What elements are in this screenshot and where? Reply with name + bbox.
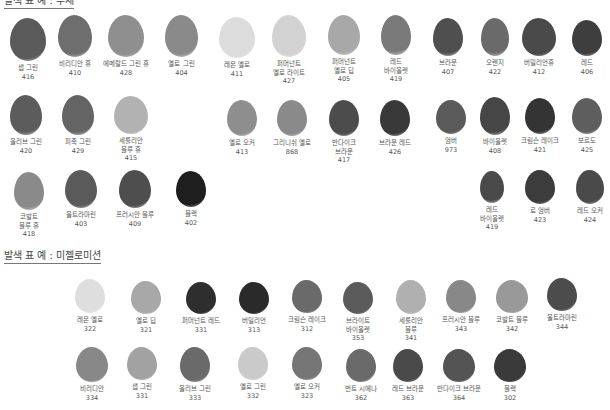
swatch-label: 옐로 딥 bbox=[116, 317, 176, 326]
swatch-code: 331 bbox=[112, 392, 172, 401]
swatch-label: 레드 bbox=[557, 59, 610, 68]
swatch-label: 울트라마린 bbox=[532, 314, 592, 323]
color-swatch: 옐로 그린332 bbox=[223, 347, 283, 400]
swatch-label: 퍼머넌트 옐로 딥 bbox=[314, 58, 374, 75]
color-swatch: 퍼머넌트 옐로 라이트427 bbox=[259, 15, 319, 86]
swatch-code: 331 bbox=[171, 326, 231, 335]
paint-blob bbox=[433, 18, 463, 56]
paint-blob bbox=[396, 280, 426, 314]
paint-blob bbox=[219, 17, 255, 58]
paint-blob bbox=[238, 347, 268, 380]
paint-blob bbox=[480, 171, 504, 203]
paint-blob bbox=[443, 349, 475, 382]
paint-blob bbox=[346, 349, 376, 382]
color-swatch: 피죽 그린429 bbox=[48, 95, 108, 155]
color-swatch: 샙 그린331 bbox=[112, 347, 172, 400]
paint-blob bbox=[14, 172, 44, 210]
section-heading-watercolor: 발색 표 예 : 수채 bbox=[4, 0, 74, 9]
paint-blob bbox=[381, 15, 411, 55]
color-swatch: 레드 오커424 bbox=[560, 170, 610, 224]
swatch-label: 울트라마린 bbox=[51, 211, 111, 220]
swatch-label: 버밀리언 bbox=[224, 317, 284, 326]
paint-blob bbox=[380, 100, 410, 136]
swatch-label: 브라이트 바이올렛 bbox=[328, 317, 388, 334]
swatch-label: 브라운 레드 bbox=[365, 139, 425, 148]
color-swatch: 프러시안 블루409 bbox=[105, 170, 165, 228]
color-swatch: 브라운 레드426 bbox=[365, 100, 425, 156]
swatch-code: 425 bbox=[557, 146, 610, 155]
color-swatch: 에메랄드 그린 휴428 bbox=[96, 15, 156, 77]
swatch-code: 321 bbox=[116, 326, 176, 335]
swatch-label: 블랙 bbox=[161, 210, 221, 219]
paint-blob bbox=[572, 98, 602, 134]
color-swatch: 울트라마린344 bbox=[532, 278, 592, 331]
color-swatch: 올리브 그린333 bbox=[165, 347, 225, 402]
color-swatch: 퍼머넌트 옐로 딥405 bbox=[314, 15, 374, 84]
color-swatch: 옐로 오커323 bbox=[277, 347, 337, 400]
paint-blob bbox=[127, 347, 157, 380]
color-swatch: 퍼머넌트 레드331 bbox=[171, 282, 231, 334]
paint-blob bbox=[131, 281, 161, 314]
swatch-code: 419 bbox=[366, 75, 426, 84]
paint-blob bbox=[481, 18, 509, 56]
swatch-code: 302 bbox=[480, 394, 540, 403]
paint-blob bbox=[525, 170, 555, 204]
color-swatch: 레몬 옐로411 bbox=[207, 17, 267, 78]
swatch-label: 올리브 그린 bbox=[165, 385, 225, 394]
paint-blob bbox=[576, 170, 604, 204]
swatch-label: 프러시안 블루 bbox=[105, 211, 165, 220]
swatch-label: 에메랄드 그린 휴 bbox=[96, 60, 156, 69]
paint-blob bbox=[176, 171, 206, 207]
paint-blob bbox=[76, 347, 108, 382]
swatch-code: 409 bbox=[105, 220, 165, 229]
swatch-code: 353 bbox=[328, 334, 388, 343]
color-swatch: 블랙402 bbox=[161, 171, 221, 227]
swatch-code: 322 bbox=[60, 325, 120, 334]
paint-blob bbox=[277, 100, 307, 136]
paint-blob bbox=[494, 349, 526, 382]
swatch-label: 퍼머넌트 레드 bbox=[171, 317, 231, 326]
paint-blob bbox=[496, 280, 528, 313]
color-swatch: 옐로 딥321 bbox=[116, 281, 176, 334]
swatch-code: 419 bbox=[462, 223, 522, 232]
swatch-label: 그리니쉬 옐로 bbox=[262, 139, 322, 148]
paint-blob bbox=[522, 18, 556, 56]
swatch-label: 레몬 옐로 bbox=[207, 61, 267, 70]
swatch-code: 417 bbox=[314, 156, 374, 165]
paint-blob bbox=[108, 15, 144, 57]
color-swatch: 블랙302 bbox=[480, 349, 540, 402]
swatch-code: 341 bbox=[381, 334, 441, 343]
paint-blob bbox=[547, 278, 577, 311]
swatch-code: 405 bbox=[314, 75, 374, 84]
swatch-label: 레몬 옐로 bbox=[60, 316, 120, 325]
paint-blob bbox=[272, 15, 306, 57]
color-swatch: 브라이트 바이올렛353 bbox=[328, 282, 388, 343]
paint-blob bbox=[446, 280, 476, 313]
swatch-label: 세룰리안 블루 휴 bbox=[101, 137, 161, 154]
color-swatch: 보르도425 bbox=[557, 98, 610, 154]
swatch-code: 323 bbox=[277, 392, 337, 401]
swatch-code: 426 bbox=[365, 148, 425, 157]
color-swatch: 그리니쉬 옐로868 bbox=[262, 100, 322, 156]
paint-blob bbox=[436, 100, 466, 134]
color-swatch: 레몬 옐로322 bbox=[60, 279, 120, 333]
swatch-label: 퍼머넌트 옐로 라이트 bbox=[259, 60, 319, 77]
swatch-label: 블랙 bbox=[480, 385, 540, 394]
color-swatch: 레드 바이올렛419 bbox=[366, 15, 426, 84]
color-swatch: 버밀리언313 bbox=[224, 282, 284, 334]
swatch-code: 868 bbox=[262, 148, 322, 157]
paint-blob bbox=[180, 347, 210, 382]
paint-blob bbox=[75, 279, 105, 313]
swatch-code: 429 bbox=[48, 147, 108, 156]
paint-blob bbox=[292, 280, 322, 313]
paint-blob bbox=[114, 96, 148, 134]
paint-blob bbox=[58, 15, 92, 57]
paint-blob bbox=[119, 170, 151, 208]
paint-blob bbox=[343, 282, 373, 314]
color-swatch: 옐로 그린404 bbox=[152, 15, 212, 77]
paint-blob bbox=[62, 95, 94, 135]
paint-blob bbox=[10, 95, 42, 135]
paint-blob bbox=[480, 97, 510, 135]
swatch-code: 313 bbox=[224, 326, 284, 335]
paint-blob bbox=[525, 98, 555, 134]
